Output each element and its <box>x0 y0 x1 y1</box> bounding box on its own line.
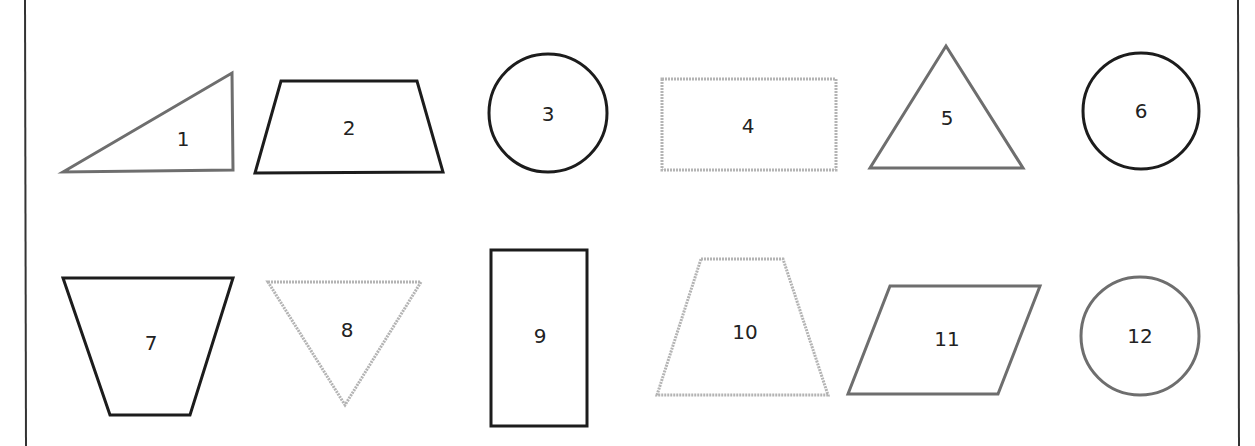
shape-label: 2 <box>343 116 356 140</box>
right-border <box>1238 0 1239 446</box>
left-border <box>25 0 26 446</box>
shape-12-circle: 12 <box>1081 277 1199 395</box>
shape-3-circle: 3 <box>489 54 607 172</box>
shape-label: 6 <box>1135 99 1148 123</box>
shapes-worksheet: 1 2 3 4 5 6 7 8 9 10 11 <box>0 0 1255 446</box>
shape-label: 4 <box>742 114 755 138</box>
shape-label: 10 <box>732 320 757 344</box>
shape-label: 7 <box>145 331 158 355</box>
shape-label: 1 <box>177 127 190 151</box>
shape-label: 5 <box>941 106 954 130</box>
shape-label: 3 <box>542 102 555 126</box>
shape-1-right-triangle: 1 <box>63 73 233 172</box>
shape-5-triangle: 5 <box>870 46 1023 168</box>
shape-6-circle: 6 <box>1083 53 1199 169</box>
shape-label: 11 <box>934 327 959 351</box>
shape-8-inverted-triangle: 8 <box>268 282 421 405</box>
shape-9-rectangle: 9 <box>491 250 587 426</box>
shape-label: 9 <box>534 324 547 348</box>
shape-11-parallelogram: 11 <box>848 286 1040 394</box>
shape-2-trapezoid: 2 <box>255 81 443 173</box>
shape-7-inverted-trapezoid: 7 <box>63 278 233 415</box>
shape-4-rectangle: 4 <box>662 79 836 170</box>
shape-10-trapezoid: 10 <box>657 259 828 395</box>
shape-label: 8 <box>341 318 354 342</box>
shape-label: 12 <box>1127 324 1152 348</box>
